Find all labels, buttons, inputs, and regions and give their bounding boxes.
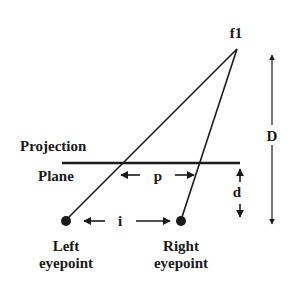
- i-label: i: [118, 213, 122, 229]
- left-sight-line: [66, 49, 237, 220]
- left-eyepoint-label-line1: Left: [53, 238, 80, 254]
- p-label: p: [154, 168, 162, 184]
- right-eyepoint-label-line1: Right: [163, 238, 199, 254]
- diagram-svg: f1 Projection Plane p d D i Left eyepoin…: [0, 0, 300, 288]
- d-label: d: [233, 184, 242, 200]
- right-sight-line: [181, 49, 237, 220]
- focal-point-label: f1: [230, 25, 243, 41]
- projection-plane-label-line1: Projection: [20, 138, 87, 154]
- projection-plane-label-line2: Plane: [38, 168, 74, 184]
- left-eyepoint-label-line2: eyepoint: [39, 255, 93, 271]
- left-eyepoint-dot: [61, 216, 71, 226]
- right-eyepoint-label-line2: eyepoint: [154, 255, 208, 271]
- right-eyepoint-dot: [176, 216, 186, 226]
- stereo-projection-diagram: f1 Projection Plane p d D i Left eyepoin…: [0, 0, 300, 288]
- D-label: D: [267, 128, 278, 144]
